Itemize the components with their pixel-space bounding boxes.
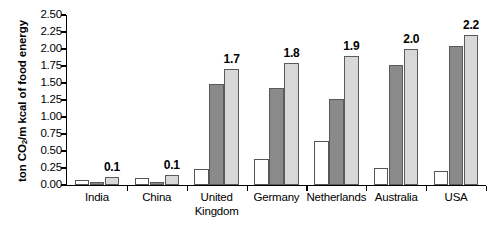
bar xyxy=(344,56,359,185)
bar xyxy=(284,63,299,185)
y-axis-tick-label: 0.25 xyxy=(26,162,62,173)
bar-group: 0.1 xyxy=(127,15,187,185)
bar-value-label: 0.1 xyxy=(96,160,129,174)
bar xyxy=(374,168,389,185)
y-axis-tick xyxy=(61,150,66,151)
y-axis-tick-label: 2.50 xyxy=(26,9,62,20)
bar xyxy=(254,159,269,185)
y-axis-tick-label: 0.50 xyxy=(26,145,62,156)
bar xyxy=(150,182,165,185)
bar-value-label: 1.8 xyxy=(275,46,308,60)
bar xyxy=(314,141,329,185)
y-axis-tick-label: 1.50 xyxy=(26,77,62,88)
x-axis-category-label: Germany xyxy=(247,191,307,205)
x-axis-category-label: Netherlands xyxy=(306,191,366,205)
y-axis-tick xyxy=(61,184,66,185)
y-axis-tick xyxy=(61,82,66,83)
y-axis-tick xyxy=(61,167,66,168)
bar-value-label: 1.7 xyxy=(215,52,248,66)
y-axis-tick xyxy=(61,65,66,66)
bar-group: 1.8 xyxy=(247,15,307,185)
x-axis-category-label-line: Kingdom xyxy=(187,205,247,219)
x-axis-line xyxy=(66,185,486,186)
bar xyxy=(90,182,105,185)
bar-value-label: 1.9 xyxy=(335,39,368,53)
x-axis-category-label-line: India xyxy=(67,191,127,205)
y-axis-tick-label: 0.00 xyxy=(26,179,62,190)
bar-value-label: 2.2 xyxy=(455,18,488,32)
y-axis-tick xyxy=(61,14,66,15)
bar-group: 1.7 xyxy=(187,15,247,185)
x-axis-tick xyxy=(486,186,487,191)
y-axis-tick-label: 1.75 xyxy=(26,60,62,71)
bar xyxy=(464,35,479,185)
bar xyxy=(209,84,224,185)
x-axis-category-label: India xyxy=(67,191,127,205)
plot-area: 0.10.11.71.81.92.02.2 xyxy=(67,15,486,185)
y-axis-tick xyxy=(61,116,66,117)
bar xyxy=(434,171,449,185)
x-axis-category-label: UnitedKingdom xyxy=(187,191,247,218)
y-axis-tick-label: 1.00 xyxy=(26,111,62,122)
bar xyxy=(224,69,239,185)
bar-group: 0.1 xyxy=(67,15,127,185)
y-axis-tick xyxy=(61,133,66,134)
y-axis-tick xyxy=(61,31,66,32)
bar xyxy=(269,88,284,185)
bar xyxy=(75,180,90,185)
bar xyxy=(105,177,120,185)
bar xyxy=(404,49,419,185)
bar-value-label: 0.1 xyxy=(156,158,189,172)
x-axis-category-label-line: Netherlands xyxy=(306,191,366,205)
y-axis-tick-labels: 2.502.252.001.751.501.251.000.750.500.25… xyxy=(26,0,62,228)
y-axis-tick xyxy=(61,48,66,49)
bar xyxy=(329,99,344,185)
y-axis-tick xyxy=(61,99,66,100)
bar xyxy=(135,178,150,185)
x-axis-category-label-line: Germany xyxy=(247,191,307,205)
x-axis-category-label: Australia xyxy=(366,191,426,205)
x-axis-category-labels: IndiaChinaUnitedKingdomGermanyNetherland… xyxy=(67,191,486,227)
x-axis-category-label-line: USA xyxy=(426,191,486,205)
bar-chart: ton CO2/m kcal of food energy 2.502.252.… xyxy=(0,0,500,228)
bar-group: 2.0 xyxy=(366,15,426,185)
x-axis-category-label: USA xyxy=(426,191,486,205)
y-axis-tick-label: 2.00 xyxy=(26,43,62,54)
x-axis-category-label-line: United xyxy=(187,191,247,205)
y-axis-tick-label: 0.75 xyxy=(26,128,62,139)
x-axis-category-label: China xyxy=(127,191,187,205)
x-axis-category-label-line: Australia xyxy=(366,191,426,205)
y-axis-tick-label: 2.25 xyxy=(26,26,62,37)
y-axis-tick-label: 1.25 xyxy=(26,94,62,105)
bar xyxy=(389,65,404,185)
bar xyxy=(165,175,180,185)
bar-group: 2.2 xyxy=(426,15,486,185)
bar-group: 1.9 xyxy=(306,15,366,185)
bar xyxy=(194,169,209,185)
x-axis-category-label-line: China xyxy=(127,191,187,205)
bar-value-label: 2.0 xyxy=(395,32,428,46)
bar xyxy=(449,46,464,185)
